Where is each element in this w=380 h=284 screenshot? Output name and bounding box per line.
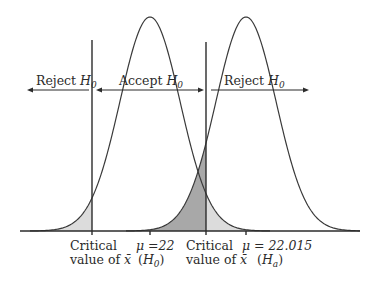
arrowhead-left-icon [27, 88, 33, 93]
reject-left-label: Reject H0 [36, 73, 97, 90]
crit-right-label-line2: value of x̄ [185, 252, 247, 267]
null-distribution-curve [30, 17, 270, 231]
crit-left-label-line1: Critical [70, 238, 117, 253]
accept-label: Accept H0 [118, 73, 183, 90]
mu0-label: μ =22 [136, 238, 175, 253]
alternative-distribution-curve [126, 17, 360, 231]
crit-left-label-line2: value of x̄ [69, 252, 131, 267]
arrowhead-left-icon [96, 88, 102, 93]
mua-label: μ = 22.015 [242, 238, 312, 253]
arrowhead-right-icon [303, 88, 309, 93]
arrowhead-right-icon [198, 88, 204, 93]
reject-right-label: Reject H0 [224, 73, 285, 90]
hypothesis-test-diagram: Reject H0 Accept H0 Reject H0 Critical v… [0, 0, 380, 284]
crit-right-label-line1: Critical [186, 238, 233, 253]
h0-label: (H0) [138, 252, 164, 269]
ha-label: (Ha) [257, 252, 283, 269]
